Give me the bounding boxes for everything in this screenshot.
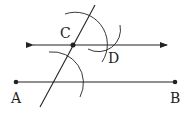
arc-small-d: [88, 25, 121, 52]
label-a: A: [10, 90, 22, 106]
arc-upper: [65, 12, 107, 62]
point-c: [71, 43, 76, 48]
point-b: [173, 80, 178, 85]
label-b: B: [170, 90, 180, 106]
point-a: [14, 80, 19, 85]
geometry-diagram: A B C D: [0, 0, 193, 114]
diagram-canvas: A B C D: [0, 0, 193, 114]
label-c: C: [60, 25, 71, 41]
label-d: D: [108, 50, 119, 66]
